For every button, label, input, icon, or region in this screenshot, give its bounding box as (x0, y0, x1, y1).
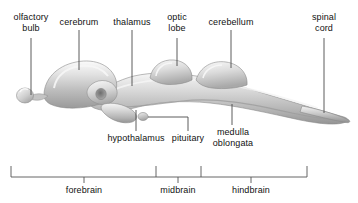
label-hindbrain: hindbrain (219, 185, 283, 196)
region-bracket-group (11, 166, 307, 183)
brain-body-group (17, 60, 350, 124)
label-optic-lobe: optic lobe (152, 12, 202, 33)
diagram-canvas: olfactory bulb cerebrum thalamus optic l… (0, 0, 358, 203)
label-spinal-cord: spinal cord (299, 12, 349, 33)
pituitary-shape (138, 113, 148, 121)
ventricle-opening (96, 88, 106, 99)
label-cerebellum: cerebellum (199, 17, 263, 28)
label-medulla-oblongata: medulla oblongata (206, 127, 260, 148)
label-cerebrum: cerebrum (49, 17, 109, 28)
leader-pituitary (148, 117, 188, 131)
bracket-rail (11, 166, 307, 177)
label-midbrain: midbrain (148, 185, 208, 196)
label-forebrain: forebrain (52, 185, 116, 196)
